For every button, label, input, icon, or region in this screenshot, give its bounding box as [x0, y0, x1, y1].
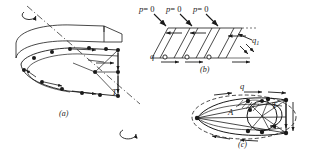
panel-c-q-label: q: [240, 82, 244, 91]
panel-c-caption: (c): [238, 141, 247, 149]
panel-c-area-label: A: [228, 108, 233, 117]
panel-c-torque-label: T: [272, 101, 277, 110]
panel-c-graphics: [0, 0, 312, 156]
figure-root: (a) T: [0, 0, 312, 156]
